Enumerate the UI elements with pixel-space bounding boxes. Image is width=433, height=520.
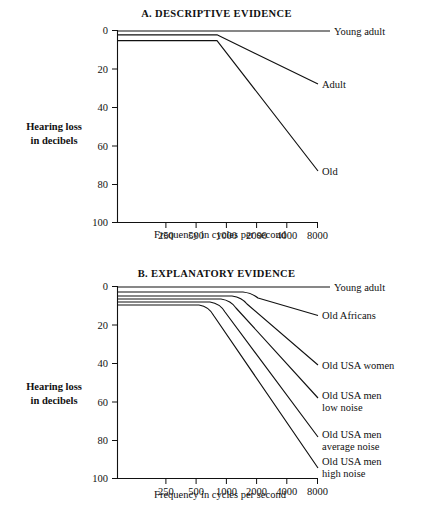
- panel-a-y-tick-labels: 0 20 40 60 80 100: [92, 25, 108, 228]
- panel-a-ytick-60: 60: [98, 141, 109, 152]
- panel-b-plot: 0 20 40 60 80 100 250 500 1000 2000: [0, 260, 433, 520]
- panel-a-ytick-40: 40: [98, 102, 109, 113]
- panel-b-x-ticks: [166, 479, 318, 485]
- panel-b-x-axis-label: Frequency in cycles per second: [80, 488, 360, 501]
- hearing-loss-figure: A. DESCRIPTIVE EVIDENCE Hearing loss in …: [0, 0, 433, 520]
- panel-a-ytick-0: 0: [103, 25, 108, 36]
- panel-explanatory-evidence: B. EXPLANATORY EVIDENCE Hearing loss in …: [0, 260, 433, 520]
- panel-b-series-label-old-usa-men-low-noise-l1: Old USA men: [322, 390, 382, 401]
- panel-b-series-label-old-usa-men-high-noise-l1: Old USA men: [322, 456, 382, 467]
- panel-a-y-ticks: [112, 31, 118, 223]
- panel-b-series-label-old-usa-men-high-noise-l2: high noise: [322, 468, 366, 479]
- panel-b-series-label-old-africans: Old Africans: [322, 310, 376, 321]
- panel-b-axis-lines: [118, 286, 319, 479]
- panel-b-series-label-old-usa-men-average-noise-l2: average noise: [322, 441, 380, 452]
- panel-a-series-label-old: Old: [322, 166, 339, 177]
- panel-b-series-label-young-adult: Young adult: [334, 282, 385, 293]
- panel-a-curve-old: [118, 41, 319, 171]
- panel-b-y-ticks: [112, 287, 118, 479]
- panel-b-series-label-old-usa-men-average-noise-l1: Old USA men: [322, 429, 382, 440]
- panel-b-ytick-100: 100: [92, 473, 108, 484]
- panel-a-series-label-young-adult: Young adult: [334, 26, 385, 37]
- panel-b-y-tick-labels: 0 20 40 60 80 100: [92, 281, 108, 484]
- panel-b-ytick-80: 80: [98, 435, 109, 446]
- panel-b-series-label-old-usa-women: Old USA women: [322, 360, 395, 371]
- panel-a-x-axis-label: Frequency in cycles per second: [80, 228, 360, 241]
- panel-a-axis-lines: [118, 30, 319, 223]
- panel-a-ytick-100: 100: [92, 217, 108, 228]
- panel-b-ytick-20: 20: [98, 320, 109, 331]
- panel-a-ytick-20: 20: [98, 64, 109, 75]
- panel-descriptive-evidence: A. DESCRIPTIVE EVIDENCE Hearing loss in …: [0, 0, 433, 260]
- panel-b-curve-old-usa-men-low-noise: [118, 299, 319, 398]
- panel-b-ytick-0: 0: [103, 281, 108, 292]
- panel-a-series-label-adult: Adult: [322, 79, 346, 90]
- panel-b-series-label-old-usa-men-low-noise-l2: low noise: [322, 402, 363, 413]
- panel-b-ytick-60: 60: [98, 397, 109, 408]
- panel-a-plot: 0 20 40 60 80 100 250 500 1000 2000: [0, 0, 433, 260]
- panel-a-ytick-80: 80: [98, 179, 109, 190]
- panel-b-curve-old-usa-men-high-noise: [118, 305, 319, 468]
- panel-b-ytick-40: 40: [98, 358, 109, 369]
